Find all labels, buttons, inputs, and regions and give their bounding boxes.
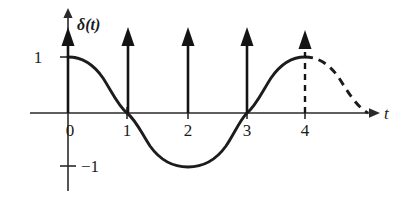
impulse-arrowhead-t0: [62, 27, 75, 46]
impulse-arrowhead-t1: [122, 27, 135, 46]
cosine-curve-solid: [68, 57, 305, 167]
t-tick-label-2: 2: [184, 121, 193, 140]
impulse-arrowhead-t2: [182, 27, 195, 46]
cosine-curve-dashed: [305, 57, 368, 113]
impulse-arrowhead-t3: [241, 27, 254, 46]
y-axis-arrowhead: [63, 8, 72, 18]
impulse-arrow-t3: [241, 27, 254, 113]
t-tick-label-3: 3: [243, 121, 252, 140]
delta-impulse-figure: δ(t) t 1 −1 0 1 2 3 4: [0, 0, 412, 199]
t-tick-label-1: 1: [123, 121, 132, 140]
t-tick-label-4: 4: [301, 121, 310, 140]
impulse-arrow-t0: [62, 27, 75, 113]
t-axis-label: t: [384, 104, 390, 123]
impulse-arrow-t1: [122, 27, 135, 113]
y-axis-label: δ(t): [77, 16, 100, 34]
t-tick-label-0: 0: [66, 121, 75, 140]
figure-canvas: δ(t) t 1 −1 0 1 2 3 4: [0, 0, 412, 199]
impulse-arrow-t2: [182, 27, 195, 113]
impulse-arrowhead-t4: [299, 30, 312, 49]
t-axis: [30, 108, 380, 118]
y-tick-label-one: 1: [34, 48, 43, 67]
impulse-arrow-t4: [299, 30, 312, 113]
y-tick-label-minus-one: −1: [81, 157, 99, 176]
t-axis-arrowhead: [369, 108, 380, 118]
